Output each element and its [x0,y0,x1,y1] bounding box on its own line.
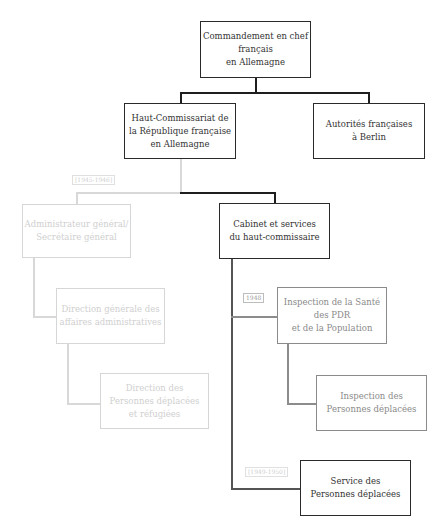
connector-hc-down [180,158,182,193]
connector-dg-down [67,343,69,405]
period-tag-1: [1945-1946] [72,175,115,185]
connector-to-service-personnes [231,488,301,490]
node-haut-commissariat: Haut-Commissariat de la République franç… [124,103,236,159]
connector-bus-faint [76,192,181,194]
connector-bus-top [180,92,370,94]
node-autorites-berlin: Autorités françaises à Berlin [313,103,425,159]
node-direction-personnes-deplacees: Direction des Personnes déplacées et réf… [100,373,209,429]
connector-to-inspection-personnes [287,403,316,405]
connector-to-direction-personnes [67,403,100,405]
node-commandement-en-chef: Commandement en chef français en Allemag… [200,21,311,78]
connector-to-inspection-sante [231,316,277,318]
connector-sante-down [287,343,289,405]
node-inspection-personnes-deplacees: Inspection des Personnes déplacées [316,375,427,431]
connector-commandement [255,77,257,93]
connector-cabinet-down [231,258,233,490]
period-tag-2: 1948 [243,293,264,303]
connector-to-direction-generale [33,316,56,318]
node-cabinet-services: Cabinet et services du haut-commissaire [219,203,330,259]
connector-admin-down [33,258,35,318]
node-service-personnes-deplacees: Service des Personnes déplacées [300,460,411,516]
connector-to-admin [76,192,78,204]
connector-bus-dark [180,192,276,194]
node-inspection-sante: Inspection de la Santé des PDR et de la … [277,287,387,344]
node-direction-generale-affaires: Direction générale des affaires administ… [56,288,165,344]
period-tag-3: [1949-1950] [245,467,288,477]
connector-to-cabinet [274,192,276,203]
node-administrateur-general: Administrateur général/ Secrétaire génér… [22,204,131,258]
